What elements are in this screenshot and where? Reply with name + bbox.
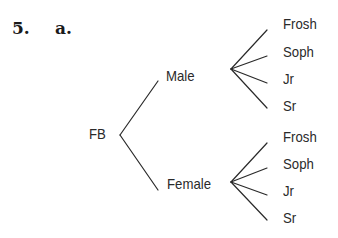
node-female-sr: Sr xyxy=(283,210,296,225)
node-female: Female xyxy=(167,176,211,191)
tree-branches xyxy=(0,0,338,238)
branch-male-sr xyxy=(231,69,267,108)
node-female-frosh: Frosh xyxy=(283,129,317,144)
node-female-soph: Soph xyxy=(283,156,314,171)
branch-fb-male xyxy=(120,81,158,135)
node-female-jr: Jr xyxy=(283,183,294,198)
branch-male-jr xyxy=(231,69,267,83)
branch-fb-female xyxy=(120,135,158,190)
branch-male-frosh xyxy=(231,30,267,69)
branch-female-soph xyxy=(231,168,267,182)
node-male-soph: Soph xyxy=(283,44,314,59)
node-male-sr: Sr xyxy=(283,98,296,113)
node-male-frosh: Frosh xyxy=(283,16,317,31)
node-male: Male xyxy=(166,68,195,83)
node-male-jr: Jr xyxy=(283,71,294,86)
branch-female-sr xyxy=(231,182,267,220)
node-root: FB xyxy=(89,126,106,141)
branch-female-frosh xyxy=(231,143,267,182)
